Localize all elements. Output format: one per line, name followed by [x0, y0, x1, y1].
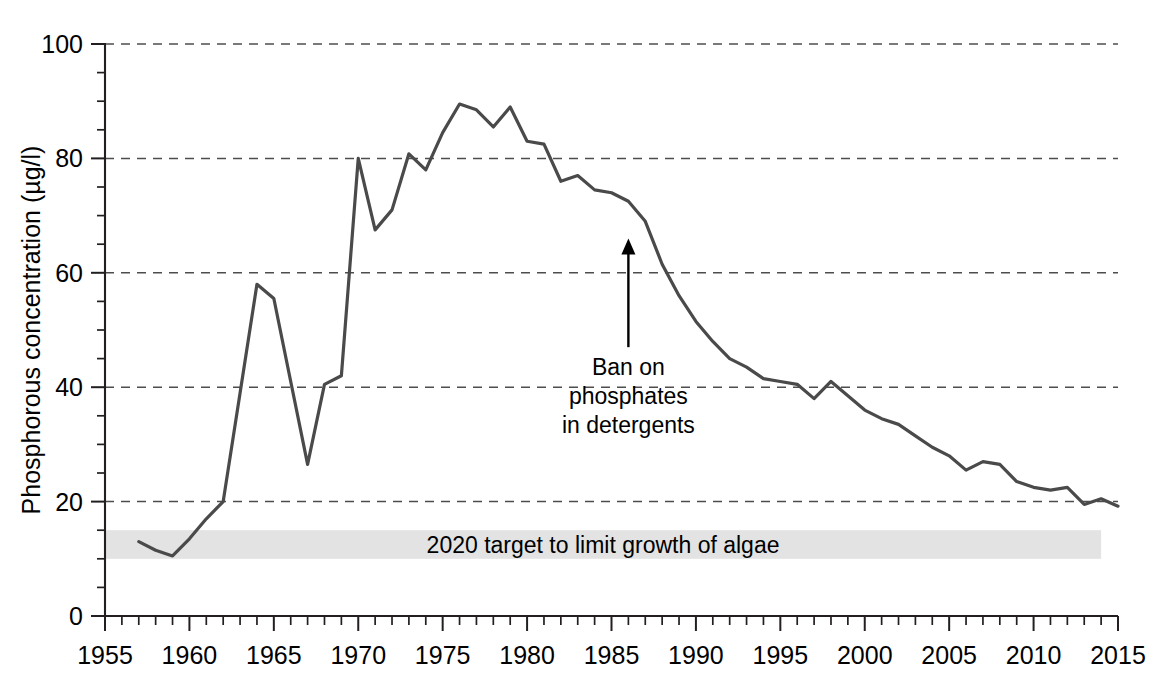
target-band-label: 2020 target to limit growth of algae — [427, 532, 780, 558]
x-tick-label-1980: 1980 — [499, 641, 555, 669]
x-tick-label-1970: 1970 — [330, 641, 386, 669]
annotations-group: Ban onphosphatesin detergents — [562, 238, 695, 438]
x-tick-label-1960: 1960 — [162, 641, 218, 669]
tick-labels-group: 0204060801001955196019651970197519801985… — [41, 30, 1146, 669]
y-tick-label-80: 80 — [55, 144, 83, 172]
annotation-line-2: in detergents — [562, 412, 695, 438]
y-axis-title: Phosphorous concentration (µg/l) — [17, 146, 45, 515]
x-tick-label-1995: 1995 — [753, 641, 809, 669]
x-tick-label-1985: 1985 — [584, 641, 640, 669]
annotation-line-0: Ban on — [592, 354, 665, 380]
x-tick-label-2010: 2010 — [1006, 641, 1062, 669]
x-tick-label-2005: 2005 — [921, 641, 977, 669]
y-tick-label-40: 40 — [55, 373, 83, 401]
annotation-arrow-head — [621, 238, 635, 254]
x-tick-label-1965: 1965 — [246, 641, 302, 669]
y-tick-label-60: 60 — [55, 259, 83, 287]
y-tick-label-0: 0 — [69, 602, 83, 630]
x-tick-label-2015: 2015 — [1090, 641, 1146, 669]
x-tick-label-1955: 1955 — [77, 641, 133, 669]
annotation-line-1: phosphates — [569, 383, 688, 409]
y-tick-label-100: 100 — [41, 30, 83, 58]
chart-svg: 0204060801001955196019651970197519801985… — [0, 0, 1171, 684]
chart-figure: 0204060801001955196019651970197519801985… — [0, 0, 1171, 684]
x-tick-label-2000: 2000 — [837, 641, 893, 669]
band-label-group: 2020 target to limit growth of algae — [427, 532, 780, 558]
x-tick-label-1990: 1990 — [668, 641, 724, 669]
y-tick-label-20: 20 — [55, 488, 83, 516]
x-tick-label-1975: 1975 — [415, 641, 471, 669]
